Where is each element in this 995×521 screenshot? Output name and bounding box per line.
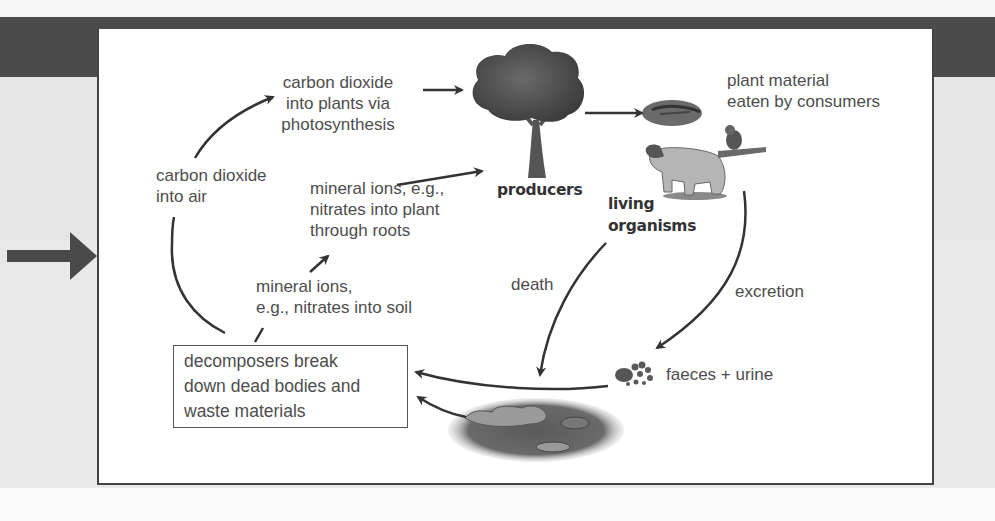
label-producers: producers <box>497 179 582 201</box>
label-decomposers: decomposers break down dead bodies and w… <box>184 349 360 424</box>
label-faeces-urine: faeces + urine <box>666 364 773 385</box>
faeces-icon <box>615 362 653 387</box>
label-plant-material: plant material eaten by consumers <box>727 70 880 112</box>
label-co2-into-plants: carbon dioxide into plants via photosynt… <box>262 72 414 135</box>
sheep-icon <box>646 144 727 200</box>
leaf-icon <box>642 100 702 126</box>
dead-matter-icon <box>448 398 624 462</box>
label-excretion: excretion <box>735 281 804 302</box>
label-mineral-ions-soil: mineral ions, e.g., nitrates into soil <box>256 276 412 318</box>
label-death: death <box>511 274 554 295</box>
decomposers-box: decomposers break down dead bodies and w… <box>173 345 408 428</box>
label-living-organisms: living organisms <box>608 193 696 237</box>
label-mineral-ions-plant: mineral ions, e.g., nitrates into plant … <box>310 178 444 241</box>
bird-icon <box>718 125 766 158</box>
label-co2-into-air: carbon dioxide into air <box>156 165 267 207</box>
tree-icon <box>473 44 585 178</box>
